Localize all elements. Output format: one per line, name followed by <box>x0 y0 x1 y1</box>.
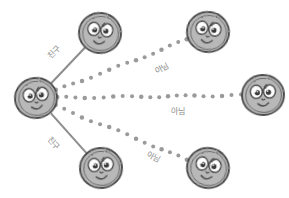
edge-e1-solid <box>51 48 84 83</box>
node-layer <box>13 9 285 191</box>
edge-e5-dotted <box>53 103 189 162</box>
edge-e4-dotted <box>55 92 243 100</box>
face-node-other-top[interactable] <box>184 9 231 54</box>
node-link-graph-svg <box>0 0 289 198</box>
edge-layer <box>51 37 243 162</box>
edge-e3-dotted <box>54 37 189 92</box>
face-node-other-mid[interactable] <box>241 74 284 115</box>
face-node-other-bot[interactable] <box>184 145 232 192</box>
diagram-canvas: 친구친구아님아님아님 <box>0 0 289 198</box>
